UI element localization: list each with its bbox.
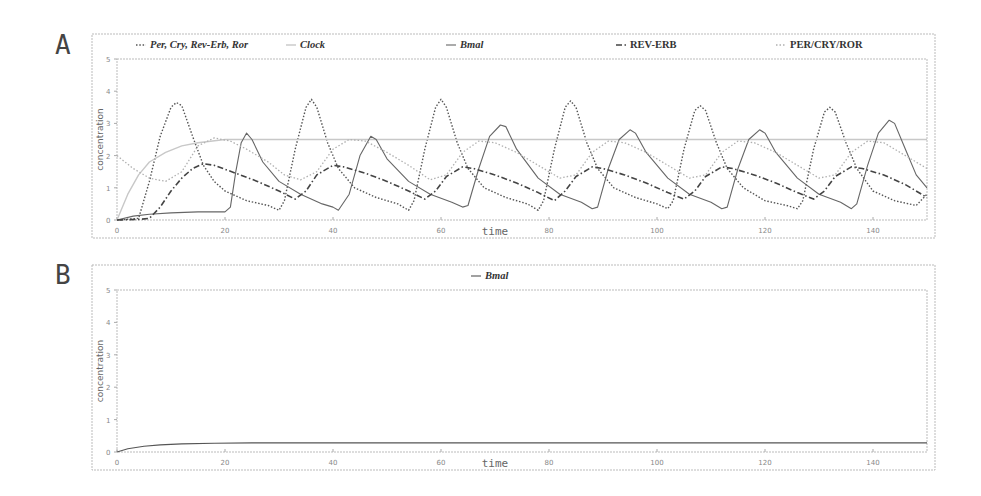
- y-tick-label: 5: [106, 287, 110, 295]
- x-tick-label: 60: [437, 459, 446, 467]
- y-tick-label: 3: [106, 352, 110, 360]
- chart-canvas: 012345020406080100120140timeconcentratio…: [0, 0, 981, 496]
- x-tick-label: 20: [221, 227, 230, 235]
- legend-entry: Bmal: [459, 39, 483, 50]
- x-tick-label: 60: [437, 227, 446, 235]
- x-tick-label: 120: [758, 227, 771, 235]
- x-axis-label: time: [482, 457, 509, 470]
- panel-frame: [92, 34, 935, 238]
- y-tick-label: 1: [106, 185, 110, 193]
- x-tick-label: 140: [866, 227, 879, 235]
- y-tick-label: 2: [106, 384, 110, 392]
- series-line: [117, 164, 927, 220]
- x-tick-label: 40: [329, 227, 338, 235]
- y-tick-label: 3: [106, 120, 110, 128]
- legend-entry: PER/CRY/ROR: [790, 39, 863, 50]
- series-line: [117, 120, 927, 220]
- series-line: [117, 140, 927, 221]
- y-tick-label: 4: [106, 88, 111, 96]
- y-tick-label: 2: [106, 153, 110, 161]
- chart-panel-a: 012345020406080100120140timeconcentratio…: [92, 34, 935, 238]
- chart-panel-b: 012345020406080100120140timeconcentratio…: [92, 265, 935, 470]
- y-axis-label: concentration: [95, 108, 105, 170]
- y-tick-label: 1: [106, 417, 110, 425]
- x-tick-label: 100: [650, 227, 663, 235]
- y-tick-label: 4: [106, 319, 111, 327]
- x-tick-label: 80: [545, 459, 554, 467]
- y-tick-label: 5: [106, 56, 110, 64]
- x-tick-label: 0: [115, 459, 119, 467]
- x-tick-label: 100: [650, 459, 663, 467]
- x-tick-label: 80: [545, 227, 554, 235]
- x-tick-label: 40: [329, 459, 338, 467]
- legend-entry: Bmal: [484, 270, 508, 281]
- x-axis-label: time: [482, 225, 509, 238]
- legend-entry: Clock: [300, 39, 326, 50]
- x-tick-label: 20: [221, 459, 230, 467]
- panel-frame: [92, 265, 935, 470]
- x-tick-label: 140: [866, 459, 879, 467]
- x-tick-label: 120: [758, 459, 771, 467]
- legend-entry: REV-ERB: [630, 39, 676, 50]
- y-axis-label: concentration: [95, 340, 105, 402]
- x-tick-label: 0: [115, 227, 119, 235]
- series-line: [117, 443, 927, 452]
- y-tick-label: 0: [106, 217, 110, 225]
- plot-area: [117, 290, 927, 452]
- legend-entry: Per, Cry, Rev-Erb, Ror: [150, 39, 249, 50]
- y-tick-label: 0: [106, 449, 110, 457]
